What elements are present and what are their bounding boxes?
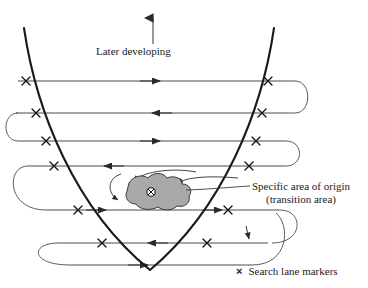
search-lane-markers	[22, 77, 272, 247]
search-lanes	[16, 81, 295, 265]
search-pattern-svg	[0, 0, 368, 288]
later-developing-label: Later developing	[96, 45, 171, 57]
lane-direction-arrows	[86, 81, 249, 265]
legend: × Search lane markers	[236, 265, 338, 277]
lane-marker-icon: ×	[236, 266, 242, 277]
origin-center-marker	[147, 188, 155, 196]
origin-area-label: Specific area of origin (transition area…	[252, 180, 350, 206]
figure-canvas: Later developing Specific area of origin…	[0, 0, 368, 288]
uturn-loops	[6, 81, 308, 265]
legend-label: Search lane markers	[248, 265, 337, 277]
origin-area-label-line2: (transition area)	[252, 193, 350, 206]
parabola-boundary	[24, 28, 274, 270]
origin-area-blob	[126, 174, 191, 210]
origin-area-label-line1: Specific area of origin	[252, 180, 350, 192]
